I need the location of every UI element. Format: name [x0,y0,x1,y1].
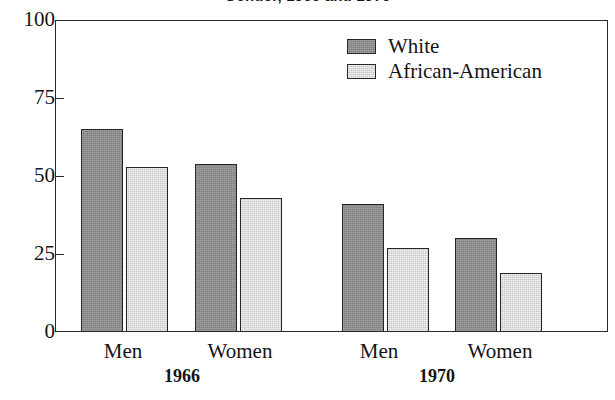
bar-chart: Gender, 1966 and 1970 1007550250 White A… [0,0,615,400]
x-group-label: Women [170,340,310,362]
bar [240,198,282,332]
bar [387,248,429,332]
legend-swatch-white-icon [347,39,376,54]
bar [500,273,542,332]
legend-swatch-african-american-icon [347,64,376,79]
bar [342,204,384,332]
x-period-label: 1970 [367,366,507,386]
bar [126,167,168,332]
bar [81,129,123,332]
x-group-label: Women [430,340,570,362]
bar [455,238,497,332]
x-group-label: Men [309,340,449,362]
legend-label-white: White [388,36,439,57]
chart-legend: White African-American [347,34,587,84]
legend-item-white: White [347,34,587,59]
bar [195,164,237,332]
legend-label-african-american: African-American [388,61,542,82]
x-period-label: 1966 [112,366,252,386]
legend-item-african-american: African-American [347,59,587,84]
